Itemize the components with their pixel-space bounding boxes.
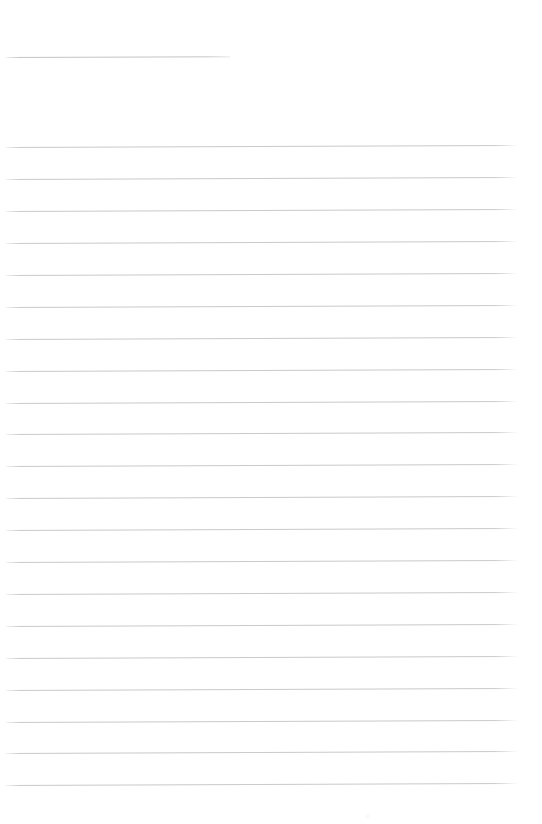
ruled-line (6, 401, 518, 404)
ruled-line (6, 369, 518, 372)
ruled-line (6, 464, 518, 467)
ruled-line (6, 241, 518, 244)
ruled-line (6, 528, 518, 531)
ruled-line (6, 592, 518, 595)
title-rule-line (6, 56, 230, 58)
ruled-line (6, 177, 518, 180)
ruled-line (6, 145, 518, 148)
ruled-line (6, 305, 518, 308)
ruled-line (6, 624, 518, 627)
ruled-line (6, 656, 518, 659)
scan-speck (365, 814, 370, 819)
ruled-line (6, 432, 518, 435)
ruled-line (6, 209, 518, 212)
ruled-line (6, 496, 518, 499)
ruled-line (6, 337, 518, 340)
ruled-line (6, 560, 518, 563)
ruled-line (6, 783, 518, 786)
ruled-line (6, 273, 518, 276)
ruled-line (6, 688, 518, 691)
ruled-line (6, 751, 518, 754)
ruled-page (0, 0, 542, 824)
ruled-line (6, 720, 518, 723)
